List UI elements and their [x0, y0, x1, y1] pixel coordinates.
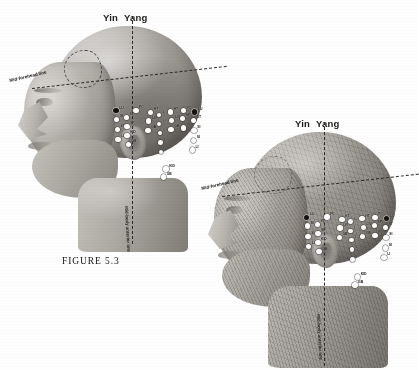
acupoint-label: SI: [389, 243, 392, 247]
acupoint-liv: [361, 225, 366, 230]
acupoint-layer: LUPCSTSISPSIKIDLIGBHTLIVGBLIILIHTLIVGBPC…: [260, 172, 390, 286]
acupoint-label: LIV: [367, 222, 372, 226]
acupoint-si: [383, 235, 388, 240]
acupoint-label: PC: [186, 106, 191, 110]
acupoint-label: SI: [121, 124, 124, 128]
acupoint-label: HT: [174, 107, 178, 111]
acupoint-label: ST: [320, 219, 324, 223]
acupoint-lu: [304, 215, 309, 220]
acupoint-label: LU: [310, 212, 314, 216]
acupoint-si: [305, 223, 310, 228]
acupoint-label: SI: [311, 221, 314, 225]
acupoint-liv: [337, 225, 342, 230]
acupoint-label: PC: [330, 212, 335, 216]
acupoint-l: [157, 113, 162, 118]
acupoint-label: I: [165, 147, 166, 151]
acupoint-label: I: [163, 119, 164, 123]
figure-caption: FIGURE 5.3: [62, 256, 120, 266]
acupoint-label: GB: [174, 124, 179, 128]
acupoint-label: PC: [378, 212, 383, 216]
acupoint-i: [349, 238, 354, 243]
acupoint-ht: [168, 109, 173, 114]
acupoint-label: LIV: [343, 223, 348, 227]
acupoint-gb: [145, 128, 150, 133]
acupoint-label: GB: [358, 280, 363, 284]
acupoint-label: KID: [169, 164, 175, 168]
acupoint-lu: [192, 109, 197, 114]
acupoint-label: SP: [321, 228, 325, 232]
acupoint-gb: [168, 127, 173, 132]
acupoint-label: LI: [121, 134, 124, 138]
yang-label: Yang: [316, 118, 340, 129]
acupoint-si: [383, 245, 388, 250]
acupoint-sp: [372, 223, 377, 228]
acupoint-label: LU: [198, 107, 202, 111]
acupoint-pi: [372, 233, 377, 238]
brow-shade: [34, 88, 62, 93]
neck-shape: [268, 286, 388, 368]
acupoint-label: GB: [151, 125, 156, 129]
acupoint-label: L: [164, 138, 166, 142]
acupoint-label: ST: [130, 112, 134, 116]
acupoint-label: HT: [345, 214, 349, 218]
yin-yang-label-group: Yin Yang: [103, 12, 148, 23]
acupoint-kid: [124, 133, 129, 138]
acupoint-label: PI: [378, 230, 381, 234]
acupoint-label: LIV: [152, 116, 157, 120]
acupoint-label: L: [354, 217, 356, 221]
head-diagram-muscular: Yin Yang Mid-forehead line Mid-body ante…: [200, 118, 416, 368]
acupoint-label: HT: [154, 107, 158, 111]
acupoint-liv: [169, 118, 174, 123]
acupoint-i: [350, 257, 355, 262]
acupoint-sp: [315, 231, 320, 236]
acupoint-l: [350, 247, 355, 252]
acupoint-label: KID: [361, 272, 367, 276]
acupoint-pc: [133, 108, 138, 113]
acupoint-liv: [146, 118, 151, 123]
acupoint-si: [115, 127, 120, 132]
acupoint-ht: [148, 110, 153, 115]
acupoint-label: LU: [390, 214, 394, 218]
acupoint-label: ST: [389, 222, 393, 226]
acupoint-gb: [360, 234, 365, 239]
acupoint-lu: [384, 216, 389, 221]
acupoint-st: [383, 225, 388, 230]
acupoint-label: HT: [365, 214, 369, 218]
acupoint-label: GB: [167, 172, 172, 176]
acupoint-si: [114, 117, 119, 122]
acupoint-label: GB: [343, 232, 348, 236]
acupoint-ht: [339, 217, 344, 222]
acupoint-si: [305, 234, 310, 239]
acupoint-label: SP: [378, 220, 382, 224]
yin-label: Yin: [103, 12, 118, 23]
acupoint-si: [191, 138, 196, 143]
acupoint-label: LI: [312, 241, 315, 245]
acupoint-li: [306, 244, 311, 249]
acupoint-l: [158, 140, 163, 145]
acupoint-kid: [315, 240, 320, 245]
acupoint-pc: [324, 214, 329, 219]
acupoint-sp: [180, 116, 185, 121]
acupoint-label: GB: [366, 231, 371, 235]
neck-shape: [78, 178, 188, 252]
acupoint-label: KID: [321, 237, 327, 241]
acupoint-i: [158, 131, 163, 136]
acupoint-st: [191, 118, 196, 123]
acupoint-label: KID: [130, 130, 136, 134]
acupoint-lu: [113, 108, 118, 113]
acupoint-label: SI: [389, 232, 392, 236]
acupoint-gb: [352, 282, 357, 287]
acupoint-label: LI: [387, 252, 390, 256]
acupoint-ht: [359, 216, 364, 221]
acupoint-label: GB: [322, 247, 327, 251]
acupoint-label: PI: [186, 123, 189, 127]
acupoint-gb: [161, 174, 166, 179]
acupoint-st: [124, 115, 129, 120]
acupoint-sp: [124, 124, 129, 129]
acupoint-label: SI: [120, 114, 123, 118]
acupoint-l: [348, 219, 353, 224]
acupoint-label: L: [355, 245, 357, 249]
acupoint-gb: [337, 235, 342, 240]
acupoint-label: I: [356, 255, 357, 259]
